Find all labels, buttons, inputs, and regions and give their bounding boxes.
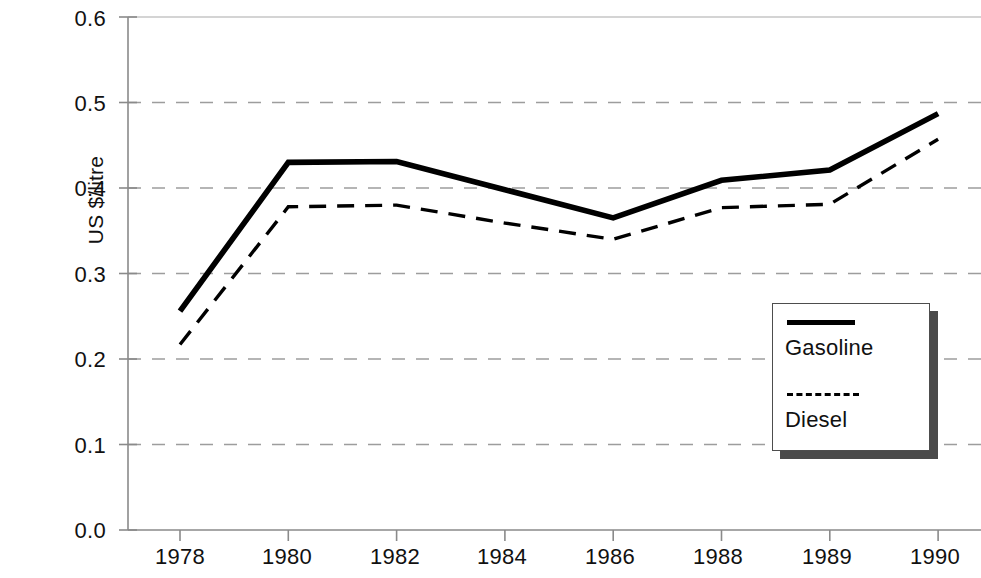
legend-item-diesel: Diesel <box>785 388 925 433</box>
series-line-gasoline <box>180 114 938 312</box>
legend: Gasoline Diesel <box>772 303 930 451</box>
legend-label-diesel: Diesel <box>785 407 925 433</box>
legend-item-gasoline: Gasoline <box>785 316 925 361</box>
line-chart: US $/litre 0.6 0.5 0.4 0.3 0.2 0.1 0.0 1… <box>0 0 981 578</box>
legend-swatch-solid-icon <box>785 316 925 328</box>
legend-label-gasoline: Gasoline <box>785 335 925 361</box>
legend-swatch-dashed-icon <box>785 388 925 400</box>
plot-area <box>0 0 981 578</box>
x-axis-ticks <box>180 530 938 541</box>
